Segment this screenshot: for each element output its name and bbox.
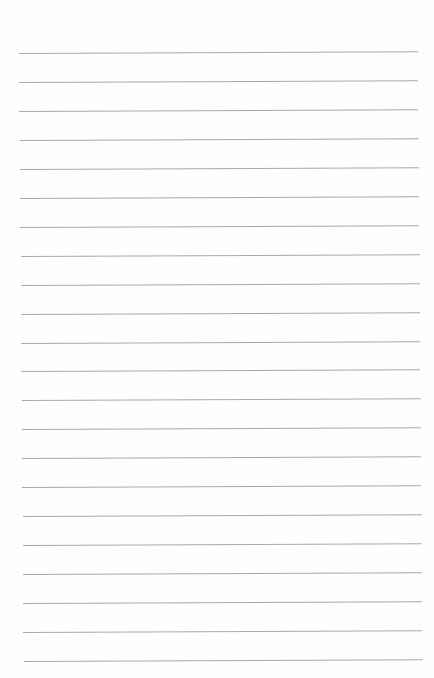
- ruled-line: [21, 312, 420, 315]
- ruled-line: [21, 283, 420, 286]
- ruled-line: [19, 51, 418, 54]
- ruled-line: [22, 457, 421, 460]
- ruled-line: [24, 659, 423, 662]
- ruled-line: [23, 630, 422, 633]
- ruled-line: [21, 341, 420, 344]
- lined-paper-page: [0, 0, 434, 678]
- ruled-line: [20, 138, 419, 141]
- ruled-line: [22, 486, 421, 489]
- ruled-line: [21, 254, 420, 257]
- ruled-line: [23, 572, 422, 575]
- ruled-line: [19, 109, 418, 112]
- ruled-line: [23, 601, 422, 604]
- ruled-line: [22, 428, 421, 431]
- ruled-line: [21, 370, 420, 373]
- ruled-line: [20, 167, 419, 170]
- ruled-line: [23, 514, 422, 517]
- ruled-line: [22, 399, 421, 402]
- ruled-line: [19, 80, 418, 83]
- ruled-line: [23, 543, 422, 546]
- ruled-line: [20, 225, 419, 228]
- ruled-line: [20, 196, 419, 199]
